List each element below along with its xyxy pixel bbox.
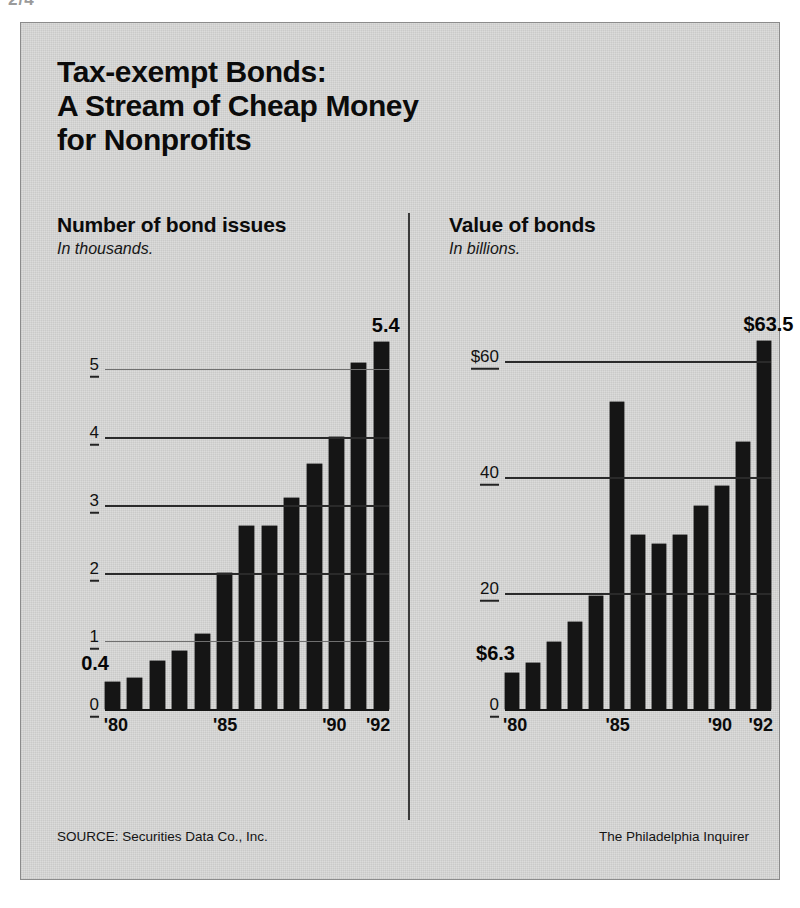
x-axis-tick-label: '80 bbox=[104, 715, 128, 736]
source-note: SOURCE: Securities Data Co., Inc. bbox=[57, 829, 268, 844]
gridline bbox=[105, 369, 389, 370]
x-axis-tick-label: '80 bbox=[503, 715, 527, 736]
left-x-axis-labels: '80'85'90'92 bbox=[105, 715, 389, 741]
bar bbox=[589, 596, 603, 709]
left-x-axis-line bbox=[105, 709, 389, 711]
bar bbox=[505, 673, 519, 710]
bar bbox=[652, 544, 666, 709]
y-axis-tick-label: 4 bbox=[90, 423, 99, 446]
x-axis-tick-label: '90 bbox=[708, 715, 732, 736]
bar bbox=[239, 526, 254, 709]
bar bbox=[757, 341, 771, 709]
gridline bbox=[105, 641, 389, 642]
value-callout: 5.4 bbox=[372, 314, 400, 337]
bar bbox=[631, 535, 645, 709]
right-bar-group bbox=[505, 315, 771, 709]
left-bar-group bbox=[105, 315, 389, 709]
gridline bbox=[105, 573, 389, 575]
y-axis-tick-label: 2 bbox=[90, 559, 99, 582]
bar bbox=[526, 663, 540, 709]
x-axis-tick-label: '92 bbox=[749, 715, 773, 736]
page-title: Tax-exempt Bonds: A Stream of Cheap Mone… bbox=[57, 55, 657, 157]
y-axis-tick-label: 40 bbox=[480, 463, 499, 486]
right-chart-header: Value of bonds In billions. bbox=[449, 213, 596, 259]
infographic-panel: Tax-exempt Bonds: A Stream of Cheap Mone… bbox=[20, 22, 780, 880]
bar bbox=[673, 535, 687, 709]
gridline bbox=[105, 505, 389, 507]
y-axis-tick-label: 20 bbox=[480, 579, 499, 602]
y-axis-tick-label: 0 bbox=[90, 695, 99, 718]
right-chart-title: Value of bonds bbox=[449, 213, 596, 237]
bar bbox=[307, 464, 322, 709]
bar bbox=[195, 634, 210, 709]
bar bbox=[568, 622, 582, 709]
y-axis-tick-label: $60 bbox=[471, 347, 499, 370]
bar bbox=[262, 526, 277, 709]
x-axis-tick-label: '92 bbox=[366, 715, 390, 736]
title-line-2: A Stream of Cheap Money bbox=[57, 89, 657, 123]
right-chart-subtitle: In billions. bbox=[449, 239, 596, 259]
value-callout: $6.3 bbox=[476, 642, 515, 665]
bar bbox=[547, 642, 561, 709]
bar bbox=[150, 661, 165, 709]
bar bbox=[284, 498, 299, 709]
bar bbox=[351, 363, 366, 709]
left-plot-area: 012345 '80'85'90'92 0.45.4 bbox=[105, 315, 397, 745]
value-callout: 0.4 bbox=[81, 652, 109, 675]
left-chart-subtitle: In thousands. bbox=[57, 239, 286, 259]
gridline bbox=[505, 477, 771, 479]
right-x-axis-labels: '80'85'90'92 bbox=[505, 715, 771, 741]
bar bbox=[172, 651, 187, 709]
chart-value-of-bonds: 02040$60 '80'85'90'92 $6.3$63.5 bbox=[449, 281, 779, 781]
x-axis-tick-label: '85 bbox=[213, 715, 237, 736]
chart-divider bbox=[408, 213, 410, 820]
y-axis-tick-label: 3 bbox=[90, 491, 99, 514]
left-chart-header: Number of bond issues In thousands. bbox=[57, 213, 286, 259]
y-axis-tick-label: 1 bbox=[90, 627, 99, 650]
x-axis-tick-label: '90 bbox=[322, 715, 346, 736]
value-callout: $63.5 bbox=[743, 313, 793, 336]
bar bbox=[715, 486, 729, 709]
footer: SOURCE: Securities Data Co., Inc. The Ph… bbox=[57, 829, 749, 844]
right-x-axis-line bbox=[505, 709, 771, 711]
gridline bbox=[105, 437, 389, 439]
bar bbox=[374, 342, 389, 709]
y-axis-tick-label: 5 bbox=[90, 355, 99, 378]
gridline bbox=[505, 361, 771, 363]
title-line-1: Tax-exempt Bonds: bbox=[57, 55, 657, 89]
bar bbox=[736, 442, 750, 709]
publication-credit: The Philadelphia Inquirer bbox=[599, 829, 749, 844]
title-line-3: for Nonprofits bbox=[57, 123, 657, 157]
y-axis-tick-label: 0 bbox=[490, 695, 499, 718]
bar bbox=[105, 682, 120, 709]
bar bbox=[694, 506, 708, 709]
bar bbox=[610, 402, 624, 709]
bar bbox=[127, 678, 142, 709]
left-chart-title: Number of bond issues bbox=[57, 213, 286, 237]
chart-number-of-bond-issues: 012345 '80'85'90'92 0.45.4 bbox=[57, 281, 397, 781]
gridline bbox=[505, 593, 771, 595]
right-plot-area: 02040$60 '80'85'90'92 $6.3$63.5 bbox=[505, 315, 779, 745]
x-axis-tick-label: '85 bbox=[605, 715, 629, 736]
page-corner-mark: 2/4 bbox=[8, 0, 35, 6]
